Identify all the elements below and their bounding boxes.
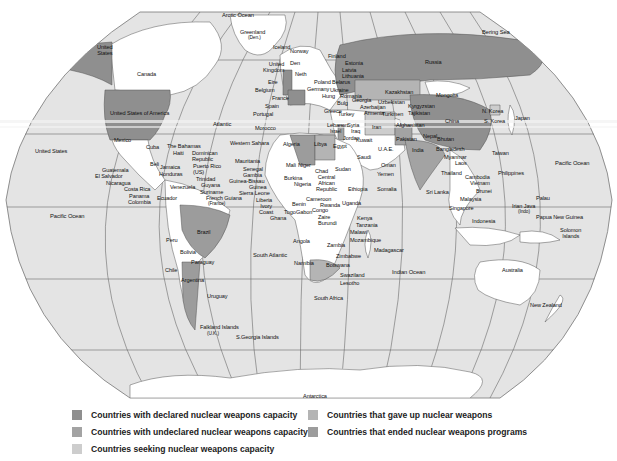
label-s-georgia-islands: S.Georgia Islands (236, 334, 279, 340)
label-arctic-ocean: Arctic Ocean (222, 12, 254, 18)
label-mongolia: Mongolia (436, 92, 458, 98)
label-french-guiana-note: (France) (208, 201, 225, 207)
legend-label-seeking: Countries seeking nuclear weapons capaci… (91, 444, 274, 454)
label-kenya: Kenya (357, 215, 372, 221)
label-yemen: Yemen (377, 171, 394, 177)
label-norway: Norway (290, 48, 308, 54)
label-saudi: Saudi (357, 154, 371, 160)
label-angola: Angola (293, 238, 310, 244)
label-sudan: Sudan (335, 166, 351, 172)
label-vietnam: Vietnam (470, 180, 490, 186)
label-morocco: Morocco (255, 125, 276, 131)
label-pacific-ocean-west: Pacific Ocean (50, 213, 84, 219)
label-denmark: Den (290, 60, 300, 66)
label-oman: Oman (381, 162, 396, 168)
label-australia: Australia (502, 267, 523, 273)
legend-item-seeking: Countries seeking nuclear weapons capaci… (72, 444, 274, 454)
label-paraguay: Paraguay (191, 259, 214, 265)
label-gabon: Gabon (296, 209, 312, 215)
label-papua-new-guinea: Papua New Guinea (536, 214, 583, 220)
label-palau: Palau (536, 195, 550, 201)
label-usa: United States of America (110, 110, 169, 116)
label-india: India (412, 147, 424, 153)
label-nepal: Nepal (423, 133, 437, 139)
legend-label-ended-programs: Countries that ended nuclear weapons pro… (327, 427, 527, 437)
label-kuwait: Kuwait (356, 137, 372, 143)
label-iceland: Iceland (273, 44, 290, 50)
label-germany: Germany (307, 86, 329, 92)
label-turkmenistan: Turkmen (382, 111, 403, 117)
label-bering-sea: Bering Sea (482, 29, 510, 35)
label-togo: Togo (284, 209, 296, 215)
label-niger: Niger (298, 162, 311, 168)
streak-artifact (0, 126, 617, 128)
label-afghanistan: Afghanistan (396, 122, 424, 128)
label-puerto-rico: Puerto Rico (US) (193, 163, 221, 175)
label-singapore: Singapore (449, 205, 474, 211)
label-dominican-republic: Dominican Republic (192, 150, 218, 162)
label-solomon-islands: Solomon Islands (560, 227, 581, 239)
label-philippines: Philippines (498, 170, 524, 176)
label-libya: Libya (314, 141, 327, 147)
legend-item-undeclared: Countries with undeclared nuclear weapon… (72, 427, 308, 437)
legend-item-gave-up: Countries that gave up nuclear weapons (308, 410, 492, 420)
world-map: Arctic Ocean Greenland (Den.) Iceland No… (0, 0, 617, 405)
legend: Countries with declared nuclear weapons … (0, 405, 617, 461)
label-spain: Spain (265, 103, 279, 109)
label-finland: Finland (328, 53, 346, 59)
label-western-sahara: Western Sahara (230, 140, 269, 146)
legend-swatch-declared (72, 410, 82, 420)
label-rwanda: Rwanda (320, 202, 340, 208)
label-united-kingdom: United Kingdom (263, 61, 284, 73)
label-iraq: Iraq (351, 128, 360, 134)
label-cuba: Cuba (146, 144, 159, 150)
label-chile: Chile (165, 267, 177, 273)
label-falkland-note: (U.K.) (207, 331, 219, 337)
label-greenland-note: (Den.) (248, 35, 261, 41)
label-ghana: Ghana (270, 215, 286, 221)
label-namibia: Namibia (294, 260, 314, 266)
label-hungary: Hung (322, 93, 335, 99)
label-japan: Japan (515, 115, 530, 121)
label-madagascar: Madagascar (374, 247, 404, 253)
label-falkland-islands: Falkland Islands (200, 324, 239, 330)
label-mali: Mali (286, 162, 296, 168)
legend-swatch-undeclared (72, 427, 82, 437)
label-venezuela: Venezuela (170, 184, 195, 190)
label-central-african-republic: Central African Republic (316, 174, 337, 192)
label-mexico: Mexico (114, 137, 131, 143)
label-pakistan: Pakistan (396, 136, 417, 142)
libya (315, 135, 335, 160)
label-n-korea: N. Korea (482, 108, 503, 114)
label-ivory-coast: Ivory Coast (259, 203, 273, 215)
france (288, 90, 305, 105)
label-sri-lanka: Sri Lanka (426, 189, 449, 195)
label-israel: Israel (330, 129, 341, 135)
label-kazakhstan: Kazakhstan (385, 89, 413, 95)
label-united-states-hawaii: United States (35, 148, 67, 154)
label-indonesia: Indonesia (472, 218, 495, 224)
label-romania: Romania (340, 93, 362, 99)
label-belgium: Belgium (255, 87, 275, 93)
label-haiti: Haiti (173, 150, 184, 156)
label-argentina: Argentina (181, 277, 204, 283)
legend-swatch-seeking (72, 444, 82, 454)
label-france: France (272, 95, 289, 101)
label-portugal: Portugal (253, 111, 273, 117)
label-guyana: Guyana (201, 182, 220, 188)
label-united-states-alaska: United States (97, 44, 113, 56)
label-nigeria: Nigeria (294, 181, 311, 187)
label-russia: Russia (425, 59, 442, 65)
legend-label-declared: Countries with declared nuclear weapons … (91, 410, 297, 420)
label-brazil: Brazil (197, 229, 210, 235)
label-lesotho: Lesotho (340, 280, 359, 286)
legend-item-declared: Countries with declared nuclear weapons … (72, 410, 297, 420)
label-somalia: Somalia (377, 186, 397, 192)
label-benin: Benin (292, 201, 306, 207)
label-mozambique: Mozambique (350, 237, 381, 243)
label-belarus: Belarus (332, 79, 350, 85)
label-swaziland: Swaziland (340, 272, 365, 278)
label-canada: Canada (137, 71, 156, 77)
label-eire: Eire (268, 79, 278, 85)
label-el-salvador: El Salvador (95, 173, 123, 179)
